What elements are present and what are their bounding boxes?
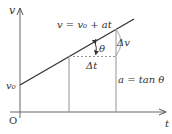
theta-label: θ — [99, 43, 105, 54]
origin-label: O — [9, 115, 17, 126]
x-axis-label: t — [165, 118, 170, 129]
slope-relation-label: a = tan θ — [118, 74, 164, 85]
y-axis-label: v — [9, 4, 16, 17]
theta-arc — [95, 42, 96, 53]
equation-label: v = v₀ + at — [57, 19, 113, 30]
intercept-label: v₀ — [6, 80, 16, 91]
vt-diagram: v t O v₀ v = v₀ + at θ Δt Δv a = tan θ — [0, 0, 172, 134]
delta-t-label: Δt — [85, 60, 98, 71]
delta-v-label: Δv — [116, 37, 130, 48]
